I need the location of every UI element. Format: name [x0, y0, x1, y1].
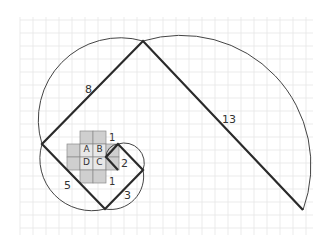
square-edges: [42, 41, 303, 210]
side-label-1-bottom: 1: [109, 176, 115, 187]
side-label-8: 8: [85, 83, 92, 96]
side-label-5: 5: [64, 179, 71, 192]
cell-label-d: D: [83, 157, 90, 167]
side-label-3: 3: [124, 189, 131, 202]
side-label-2: 2: [121, 157, 128, 170]
fibonacci-spiral: [38, 35, 311, 210]
side-label-1-top: 1: [109, 132, 115, 143]
cell-label-b: B: [96, 144, 102, 154]
cell-label-c: C: [96, 157, 102, 167]
fibonacci-spiral-diagram: A B C D 1 1 2 3 5 8 13: [0, 0, 335, 246]
side-label-13: 13: [222, 113, 236, 126]
cell-label-a: A: [83, 144, 90, 154]
